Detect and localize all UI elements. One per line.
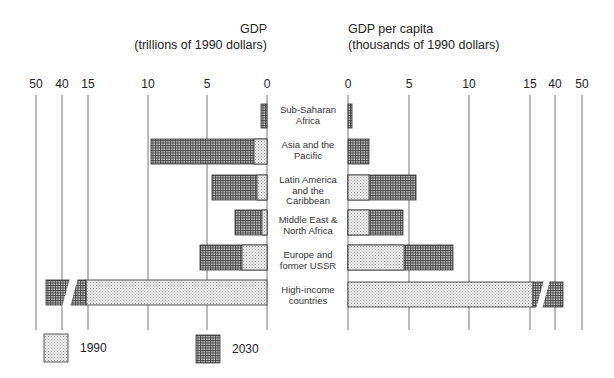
region-label-europe: Europe and former USSR [270,250,346,271]
region-label-latin-america: Latin America and the Caribbean [270,175,346,207]
left-bars [46,104,267,307]
legend-swatch-2030 [196,335,220,363]
right-bars [348,104,563,309]
legend-swatch-1990 [44,334,68,362]
region-label-asia: Asia and the Pacific [270,140,346,161]
legend-label-2030: 2030 [232,342,259,356]
region-label-high-income: High-income countries [270,285,346,306]
region-label-sub-saharan: Sub-Saharan Africa [270,105,346,126]
region-label-middle-east: Middle East & North Africa [270,215,346,236]
legend-label-1990: 1990 [80,341,107,355]
